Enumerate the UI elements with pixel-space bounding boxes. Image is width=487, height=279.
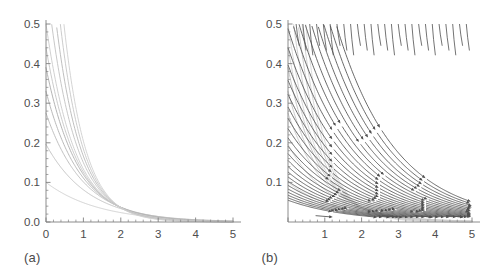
streamline-inflow-streak (439, 24, 442, 46)
streamline-inflow-streak (384, 24, 387, 51)
y-tick-label: 0.3 (24, 97, 40, 109)
streamline-inflow-streak (330, 24, 333, 55)
streamline-inflow-streak (350, 24, 353, 55)
decay-curve (46, 48, 233, 222)
y-tick-label: 0.4 (266, 58, 283, 70)
y-tick-label: 0.1 (24, 176, 40, 188)
y-tick-label: 0.4 (24, 58, 41, 70)
y-tick-label: 0.5 (24, 18, 40, 30)
decay-curve (46, 113, 233, 221)
x-tick-label: 4 (431, 228, 438, 240)
decay-curve (57, 28, 233, 222)
plot-b-streamline-group (288, 24, 470, 217)
streamline-inflow-streak (405, 24, 408, 51)
panel-b-label: (b) (262, 250, 279, 265)
decay-curve (64, 25, 233, 222)
streamline-inflow-streak (466, 24, 469, 51)
x-tick-label: 4 (192, 228, 199, 240)
streamline-inflow-streak (425, 24, 428, 51)
streamline-inflow-streak (459, 24, 462, 46)
streamline-inflow-streak (364, 24, 367, 51)
x-tick-label: 5 (468, 228, 474, 240)
y-tick-label: 0.5 (266, 18, 282, 30)
x-tick-label: 0 (43, 228, 49, 240)
background-decay-curve (288, 48, 472, 222)
decay-curve (46, 24, 233, 222)
x-tick-label: 2 (118, 228, 124, 240)
x-tick-label: 3 (155, 228, 161, 240)
streamline-inflow-streak (418, 24, 421, 46)
y-tick-label: 0.0 (24, 216, 40, 228)
background-decay-curve (298, 28, 471, 222)
panel-a-label: (a) (24, 250, 41, 265)
plot-a-axes (46, 20, 241, 222)
plot-a-canvas: 0123450.00.10.20.30.40.5 (0, 0, 244, 279)
x-tick-label: 1 (80, 228, 86, 240)
figure-container: 0123450.00.10.20.30.40.5 (a) 123450.10.2… (0, 0, 487, 279)
x-tick-label: 3 (395, 228, 401, 240)
streamline-inflow-streak (452, 24, 455, 55)
streamline-inflow-streak (343, 24, 346, 51)
streamline-inflow-streak (445, 24, 448, 51)
streamline-inflow-streak (398, 24, 401, 46)
plot-a-curve-group (46, 24, 233, 222)
panel-b: 123450.10.20.30.40.5 (b) (244, 0, 487, 279)
panel-a: 0123450.00.10.20.30.40.5 (a) (0, 0, 244, 279)
y-tick-label: 0.1 (266, 176, 282, 188)
x-tick-label: 2 (358, 228, 364, 240)
plot-b-axes (288, 20, 480, 222)
y-tick-label: 0.2 (266, 137, 282, 149)
streamline-axis-arrow (315, 216, 330, 217)
streamline-inflow-streak (411, 24, 414, 55)
x-tick-label: 1 (321, 228, 327, 240)
streamline-inflow-streak (377, 24, 380, 46)
y-tick-label: 0.3 (266, 97, 282, 109)
decay-curve (46, 144, 233, 221)
y-tick-label: 0.2 (24, 137, 40, 149)
streamline-inflow-streak (370, 24, 373, 55)
x-tick-label: 5 (230, 228, 236, 240)
plot-b-canvas: 123450.10.20.30.40.5 (244, 0, 487, 279)
streamline-inflow-streak (391, 24, 394, 55)
streamline-inflow-streak (432, 24, 435, 55)
streamline-inflow-streak (357, 24, 360, 46)
